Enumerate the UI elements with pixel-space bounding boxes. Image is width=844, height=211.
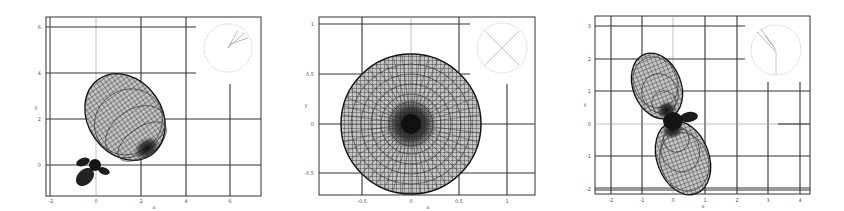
figure-canvas: 6 4 2 0 -2 0 2 4 6 x y: [0, 0, 844, 211]
svg-text:4: 4: [184, 198, 187, 204]
svg-text:2: 2: [139, 198, 142, 204]
x-axis-label: x: [427, 204, 430, 210]
svg-text:0: 0: [409, 198, 412, 204]
y-axis-label: y: [584, 101, 587, 108]
svg-text:6: 6: [228, 198, 231, 204]
figure: 6 4 2 0 -2 0 2 4 6 x y: [0, 0, 844, 211]
svg-text:1: 1: [311, 21, 314, 27]
svg-text:0: 0: [311, 121, 314, 127]
y-axis-label: y: [35, 104, 38, 111]
svg-text:1: 1: [588, 88, 591, 94]
svg-text:0: 0: [94, 198, 97, 204]
plot-panel-2: 1 0.5 0 -0.5 -0.5 0 0.5 1 x y: [304, 17, 535, 210]
svg-text:6: 6: [38, 24, 41, 30]
y-axis-label: y: [305, 102, 308, 109]
svg-text:3: 3: [588, 23, 591, 29]
svg-text:-0.5: -0.5: [357, 198, 367, 204]
svg-text:2: 2: [735, 197, 738, 203]
main-lobe: [341, 54, 481, 194]
svg-text:0: 0: [588, 121, 591, 127]
y-tick-labels: 3 2 1 0 -1 -2: [586, 23, 591, 192]
y-tick-labels: 6 4 2 0: [38, 24, 41, 168]
y-tick-labels: 1 0.5 0 -0.5: [304, 21, 314, 176]
svg-text:-1: -1: [586, 153, 591, 159]
svg-text:-2: -2: [609, 197, 614, 203]
svg-text:2: 2: [38, 116, 41, 122]
svg-text:0: 0: [671, 197, 674, 203]
svg-text:2: 2: [588, 56, 591, 62]
svg-text:0: 0: [38, 162, 41, 168]
x-tick-labels: -2 -1 0 1 2 3 4: [609, 197, 802, 203]
x-axis-label: x: [702, 203, 705, 209]
plot-panel-1: 6 4 2 0 -2 0 2 4 6 x y: [35, 17, 261, 210]
svg-text:-0.5: -0.5: [304, 170, 314, 176]
svg-text:0.5: 0.5: [306, 71, 314, 77]
svg-text:3: 3: [766, 197, 769, 203]
svg-text:4: 4: [38, 70, 41, 76]
x-tick-labels: -0.5 0 0.5 1: [357, 198, 508, 204]
svg-text:-2: -2: [49, 198, 54, 204]
x-axis-label: x: [153, 204, 156, 210]
svg-text:-2: -2: [586, 186, 591, 192]
svg-text:0.5: 0.5: [455, 198, 463, 204]
svg-text:1: 1: [505, 198, 508, 204]
plot-panel-3: 3 2 1 0 -1 -2 -2 -1 0 1 2 3 4 x y: [584, 16, 810, 209]
x-tick-labels: -2 0 2 4 6: [49, 198, 232, 204]
svg-text:-1: -1: [640, 197, 645, 203]
svg-text:4: 4: [798, 197, 801, 203]
